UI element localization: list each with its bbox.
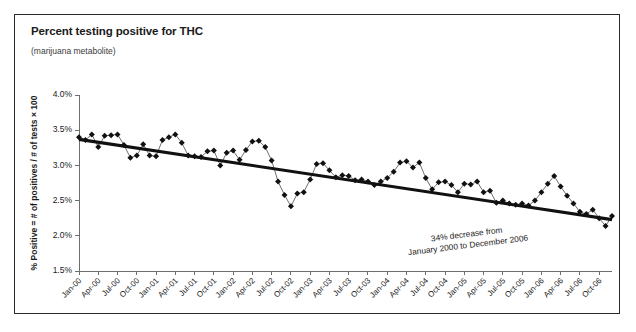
data-point-marker (134, 153, 140, 159)
data-point-marker (346, 173, 352, 179)
data-point-marker (166, 134, 172, 140)
data-point-marker (397, 160, 403, 166)
data-point-marker (590, 207, 596, 213)
x-tick-label: Jan-01 (137, 276, 161, 300)
data-point-marker (423, 175, 429, 181)
data-point-marker (468, 181, 474, 187)
y-tick-label: 2.0% (53, 230, 73, 240)
data-point-marker (249, 138, 255, 144)
y-tick-label: 3.0% (53, 160, 73, 170)
trend-annotation: 34% decrease fromJanuary 2000 to Decembe… (406, 222, 529, 258)
y-tick-label: 3.5% (53, 124, 73, 134)
x-tick-label: Apr-03 (311, 276, 335, 300)
data-point-marker (95, 144, 101, 150)
x-tick-label: Jan-03 (291, 276, 315, 300)
data-point-marker (288, 203, 294, 209)
x-tick-label: Jan-05 (445, 276, 469, 300)
y-tick-label: 4.0% (53, 89, 73, 99)
x-tick-label: Apr-00 (79, 276, 103, 300)
x-tick-label: Apr-01 (156, 276, 180, 300)
y-axis-title: % Positive = # of positives / # of tests… (29, 95, 39, 270)
x-tick-label: Oct-06 (580, 276, 604, 300)
data-point-marker (307, 176, 313, 182)
data-point-marker (481, 189, 487, 195)
data-point-marker (474, 179, 480, 185)
y-tick-label: 1.5% (53, 265, 73, 275)
x-tick-label: Jan-02 (214, 276, 238, 300)
trend-line (79, 139, 612, 219)
data-point-marker (179, 140, 185, 146)
x-tick-label: Apr-02 (233, 276, 257, 300)
data-point-marker (301, 189, 307, 195)
data-point-marker (153, 153, 159, 159)
data-point-marker (230, 148, 236, 154)
data-point-marker (243, 147, 249, 153)
data-point-marker (269, 157, 275, 163)
data-point-marker (147, 153, 153, 159)
x-tick-label: Apr-06 (542, 276, 566, 300)
data-point-marker (211, 148, 217, 154)
data-point-marker (159, 137, 165, 143)
chart-figure-border: Percent testing positive for THC (mariju… (14, 14, 620, 314)
thc-line-chart: 1.5%2.0%2.5%3.0%3.5%4.0%% Positive = # o… (15, 15, 621, 315)
data-point-marker (487, 188, 493, 194)
x-tick-label: Jan-00 (60, 276, 84, 300)
data-point-marker (217, 162, 223, 168)
data-point-marker (224, 150, 230, 156)
data-point-marker (442, 179, 448, 185)
x-tick-label: Jan-06 (522, 276, 546, 300)
y-tick-label: 2.5% (53, 195, 73, 205)
data-point-marker (127, 155, 133, 161)
data-point-marker (314, 161, 320, 167)
x-tick-label: Apr-04 (388, 276, 412, 300)
x-tick-label: Apr-05 (465, 276, 489, 300)
data-point-marker (558, 184, 564, 190)
data-point-marker (108, 132, 114, 138)
data-point-marker (140, 141, 146, 147)
data-point-marker (115, 131, 121, 137)
data-point-marker (102, 133, 108, 139)
data-point-marker (294, 191, 300, 197)
data-point-marker (275, 179, 281, 185)
x-tick-label: Jan-04 (368, 276, 392, 300)
data-point-marker (281, 192, 287, 198)
